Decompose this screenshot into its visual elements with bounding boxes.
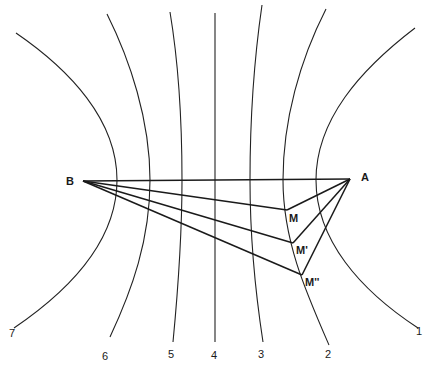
- curve-label-1: 1: [416, 325, 422, 337]
- curve-2: [283, 9, 329, 345]
- label-A: A: [361, 171, 369, 183]
- label-M-double-prime: M'': [305, 276, 320, 288]
- curve-label-7: 7: [9, 327, 15, 339]
- segment-AM1: [293, 179, 350, 243]
- segment-BM: [83, 181, 287, 210]
- label-B: B: [66, 175, 74, 187]
- curve-label-3: 3: [258, 348, 264, 360]
- label-M: M: [289, 212, 298, 224]
- segment-AM2: [302, 179, 350, 275]
- segment-BM2: [83, 181, 302, 275]
- curve-5: [170, 12, 182, 342]
- segment-BA: [83, 179, 350, 181]
- curve-label-6: 6: [102, 350, 108, 362]
- diagram-canvas: B A M M' M'' 7 6 5 4 3 2 1: [0, 0, 429, 367]
- curve-label-2: 2: [325, 348, 331, 360]
- hyperbola-diagram: B A M M' M'' 7 6 5 4 3 2 1: [0, 0, 429, 367]
- curve-label-4: 4: [211, 349, 217, 361]
- curve-label-5: 5: [168, 348, 174, 360]
- label-M-prime: M': [296, 244, 308, 256]
- curve-3: [250, 5, 263, 342]
- segment-BM1: [83, 181, 293, 243]
- curve-6: [107, 14, 150, 337]
